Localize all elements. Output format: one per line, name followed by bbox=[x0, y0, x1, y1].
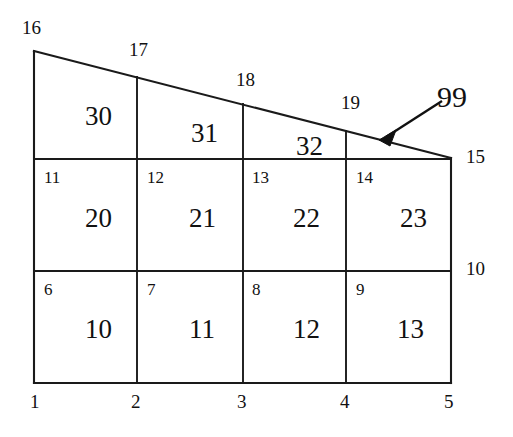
mesh-drawing bbox=[0, 0, 513, 437]
cell-center-label-20: 20 bbox=[85, 205, 112, 232]
cell-center-label-21: 21 bbox=[189, 205, 216, 232]
cell-corner-label-12: 12 bbox=[147, 169, 164, 186]
cell-center-label-31: 31 bbox=[191, 120, 218, 147]
node-label-bottom-2: 2 bbox=[131, 392, 141, 411]
node-label-bottom-1: 1 bbox=[30, 392, 40, 411]
cell-corner-label-6: 6 bbox=[44, 281, 53, 298]
cell-corner-label-13: 13 bbox=[252, 169, 269, 186]
node-label-right-15: 15 bbox=[466, 147, 485, 166]
node-label-top-19: 19 bbox=[341, 93, 360, 112]
node-label-bottom-5: 5 bbox=[444, 392, 454, 411]
node-label-bottom-3: 3 bbox=[237, 392, 247, 411]
callout-label-99: 99 bbox=[437, 82, 467, 112]
cell-center-label-23: 23 bbox=[400, 205, 427, 232]
cell-corner-label-11: 11 bbox=[44, 169, 60, 186]
cell-corner-label-9: 9 bbox=[356, 281, 365, 298]
cell-corner-label-8: 8 bbox=[252, 281, 261, 298]
cell-corner-label-14: 14 bbox=[356, 169, 373, 186]
mesh-figure: 1 2 3 4 5 10 15 16 17 18 19 6 10 7 11 8 … bbox=[0, 0, 513, 437]
cell-center-label-12: 12 bbox=[293, 316, 320, 343]
cell-center-label-13: 13 bbox=[397, 316, 424, 343]
node-label-bottom-4: 4 bbox=[340, 392, 350, 411]
node-label-top-17: 17 bbox=[129, 40, 148, 59]
node-label-right-10: 10 bbox=[466, 259, 485, 278]
cell-center-label-32: 32 bbox=[296, 133, 323, 160]
cell-center-label-10: 10 bbox=[85, 316, 112, 343]
cell-center-label-22: 22 bbox=[293, 205, 320, 232]
node-label-top-16: 16 bbox=[22, 18, 41, 37]
cell-corner-label-7: 7 bbox=[147, 281, 156, 298]
cell-center-label-11: 11 bbox=[189, 316, 215, 343]
node-label-top-18: 18 bbox=[236, 70, 255, 89]
cell-center-label-30: 30 bbox=[85, 103, 112, 130]
